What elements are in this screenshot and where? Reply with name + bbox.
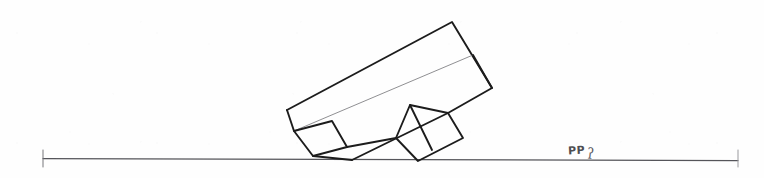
center-gable-internal-line [410,105,432,150]
main-block-right-facet-edge [473,55,492,88]
ground-line-group [43,150,738,167]
annotation-pp-label: PP [568,144,586,158]
lower-left-annex-group [294,121,396,156]
lower-left-annex-square [294,121,347,156]
main-block-left-base-edge [287,110,294,131]
sketch-canvas: PP ʔ [0,0,764,178]
ground-line [43,159,738,161]
architectural-sketch-drawing [0,0,764,178]
